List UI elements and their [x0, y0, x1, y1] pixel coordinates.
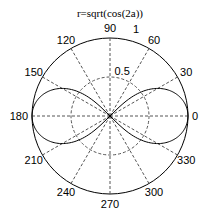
polar-plot: r=sqrt(cos(2a)) 030609012015018021024027… [0, 0, 212, 210]
angle-tick-label: 270 [101, 198, 119, 210]
angle-tick-label: 60 [148, 34, 160, 46]
angle-tick-label: 240 [57, 186, 75, 198]
angle-tick-label: 120 [57, 34, 75, 46]
angle-tick-label: 300 [145, 186, 163, 198]
data-curve [32, 88, 188, 143]
angle-spoke [71, 48, 110, 116]
radial-tick-label: 0.5 [114, 65, 129, 77]
radial-tick-label: 1 [133, 23, 139, 35]
angle-spoke [110, 48, 149, 116]
angle-tick-label: 330 [177, 154, 195, 166]
angle-tick-label: 30 [180, 66, 192, 78]
angle-tick-label: 180 [10, 110, 28, 122]
angle-tick-label: 0 [192, 110, 198, 122]
chart-title: r=sqrt(cos(2a)) [77, 7, 143, 20]
angle-tick-label: 150 [25, 66, 43, 78]
angle-tick-label: 90 [104, 22, 116, 34]
angle-tick-label: 210 [25, 154, 43, 166]
angle-spoke [110, 77, 178, 116]
